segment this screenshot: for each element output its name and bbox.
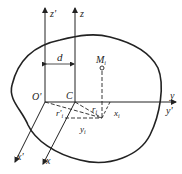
r-i-dashed <box>75 102 102 118</box>
label-c: C <box>66 90 73 101</box>
label-r-prime-i: r'i <box>56 108 63 119</box>
diagram-canvas: z' z d Mi O' C y y' r'i ri xi yi x' x <box>0 0 182 174</box>
label-z: z <box>79 8 84 19</box>
label-y: y <box>169 90 175 101</box>
label-mi: Mi <box>95 54 106 66</box>
label-x-i: xi <box>113 108 120 119</box>
label-x: x <box>45 155 51 166</box>
label-d: d <box>57 51 63 63</box>
label-z-prime: z' <box>49 8 57 19</box>
mi-point <box>100 66 104 70</box>
label-x-prime: x' <box>16 151 24 162</box>
x-i-dashed <box>102 102 110 118</box>
label-y-i: yi <box>79 124 86 135</box>
label-y-prime: y' <box>165 105 173 116</box>
label-r-i: ri <box>92 104 98 115</box>
label-o-prime: O' <box>32 91 42 102</box>
